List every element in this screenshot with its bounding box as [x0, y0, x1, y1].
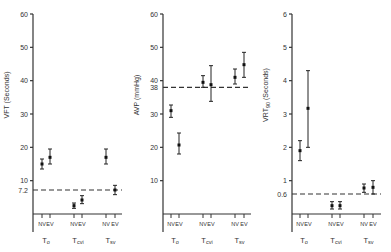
data-point-to-ev — [306, 71, 310, 148]
subgroup-label: EV — [304, 221, 312, 227]
panel-vft: 1020304050607.2VFT (Seconds)NVEVNVEVNVEV… — [3, 11, 122, 246]
subgroup-label: EV — [369, 221, 377, 227]
subgroup-label: EV — [175, 221, 183, 227]
group-label-tcvi: Tcvi — [330, 236, 341, 245]
data-point-tsv-ev — [113, 185, 117, 194]
y-tick-label: 10 — [150, 177, 158, 184]
subgroup-label: NV — [38, 221, 46, 227]
data-point-to-ev — [48, 149, 52, 164]
reference-label: 0.6 — [277, 191, 287, 198]
data-point-tsv-nv — [233, 69, 237, 84]
reference-label: 38 — [150, 84, 158, 91]
y-axis-label: VRT90 (Seconds) — [262, 68, 271, 122]
y-tick-label: 20 — [150, 144, 158, 151]
panel-avp: 10203040506038AVP (mmHg)NVEVNVEVNVEVToTc… — [133, 11, 251, 246]
subgroup-label: NV — [199, 221, 207, 227]
data-point-tcvi-nv — [72, 203, 76, 208]
y-tick-label: 3 — [283, 111, 287, 118]
group-label-tsv: Tsv — [234, 236, 244, 245]
group-label-to: To — [171, 236, 179, 245]
y-tick-label: 4 — [283, 77, 287, 84]
group-label-tcvi: Tcvi — [201, 236, 212, 245]
y-tick-label: 5 — [283, 44, 287, 51]
subgroup-label: EV — [336, 221, 344, 227]
y-tick-label: 30 — [150, 111, 158, 118]
subgroup-label: EV — [240, 221, 248, 227]
y-tick-label: 60 — [20, 11, 28, 18]
group-label-tcvi: Tcvi — [72, 236, 83, 245]
subgroup-label: EV — [78, 221, 86, 227]
data-point-to-nv — [40, 159, 44, 169]
group-label-to: To — [42, 236, 50, 245]
group-label-to: To — [300, 236, 308, 245]
data-point-tcvi-nv — [201, 76, 205, 88]
y-axis-label: VFT (Seconds) — [3, 72, 11, 119]
data-point-tcvi-ev — [338, 202, 342, 209]
y-axis-label: AVP (mmHg) — [133, 75, 141, 116]
subgroup-label: NV — [70, 221, 78, 227]
subgroup-label: NV — [102, 221, 110, 227]
data-point-tsv-nv — [104, 149, 108, 164]
y-tick-label: 60 — [150, 11, 158, 18]
figure: 1020304050607.2VFT (Seconds)NVEVNVEVNVEV… — [0, 0, 391, 252]
data-point-to-nv — [169, 105, 173, 117]
data-point-tsv-ev — [371, 181, 375, 194]
data-point-tsv-nv — [362, 184, 366, 192]
subgroup-label: NV — [360, 221, 368, 227]
subgroup-label: EV — [207, 221, 215, 227]
data-point-tcvi-ev — [80, 196, 84, 204]
y-tick-label: 6 — [283, 11, 287, 18]
y-tick-label: 50 — [20, 44, 28, 51]
data-point-tcvi-nv — [330, 202, 334, 209]
subgroup-label: EV — [111, 221, 119, 227]
y-tick-label: 40 — [20, 77, 28, 84]
data-point-to-nv — [298, 141, 302, 161]
subgroup-label: NV — [296, 221, 304, 227]
group-label-tsv: Tsv — [105, 236, 115, 245]
y-tick-label: 1 — [283, 177, 287, 184]
y-tick-label: 10 — [20, 177, 28, 184]
subgroup-label: NV — [231, 221, 239, 227]
y-tick-label: 20 — [20, 144, 28, 151]
data-point-to-ev — [177, 133, 181, 154]
reference-label: 7.2 — [18, 187, 28, 194]
data-point-tsv-ev — [242, 52, 246, 77]
subgroup-label: NV — [167, 221, 175, 227]
y-tick-label: 50 — [150, 44, 158, 51]
subgroup-label: NV — [328, 221, 336, 227]
group-label-tsv: Tsv — [363, 236, 373, 245]
data-point-tcvi-ev — [209, 66, 213, 102]
subgroup-label: EV — [46, 221, 54, 227]
panel-vrt90: 1234560.6VRT90 (Seconds)NVEVNVEVNVEVToTc… — [262, 11, 381, 246]
y-tick-label: 30 — [20, 111, 28, 118]
y-tick-label: 2 — [283, 144, 287, 151]
